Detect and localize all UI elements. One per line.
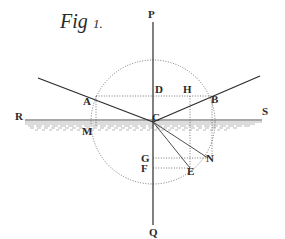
label-D: D bbox=[155, 83, 163, 95]
label-A: A bbox=[83, 95, 91, 107]
label-B: B bbox=[211, 93, 219, 105]
refracted-ray-CE bbox=[153, 122, 190, 168]
figure-number: 1. bbox=[93, 16, 103, 31]
water-surface bbox=[25, 120, 262, 130]
figure-title: Fig 1. bbox=[59, 10, 103, 33]
ray-CB bbox=[153, 76, 260, 122]
label-M: M bbox=[82, 125, 93, 137]
label-H: H bbox=[183, 83, 192, 95]
label-F: F bbox=[141, 162, 148, 174]
label-Q: Q bbox=[149, 226, 158, 238]
refracted-ray-CN bbox=[153, 122, 208, 158]
label-R: R bbox=[15, 110, 24, 122]
label-P: P bbox=[148, 8, 155, 20]
incident-ray-AC bbox=[38, 78, 153, 122]
label-S: S bbox=[262, 105, 268, 117]
figure-title-text: Fig bbox=[59, 10, 88, 33]
label-N: N bbox=[206, 152, 214, 164]
label-E: E bbox=[187, 165, 194, 177]
label-C: C bbox=[152, 111, 160, 123]
refraction-diagram: Fig 1. P Q R S A B C D H M G F N E bbox=[0, 0, 285, 239]
